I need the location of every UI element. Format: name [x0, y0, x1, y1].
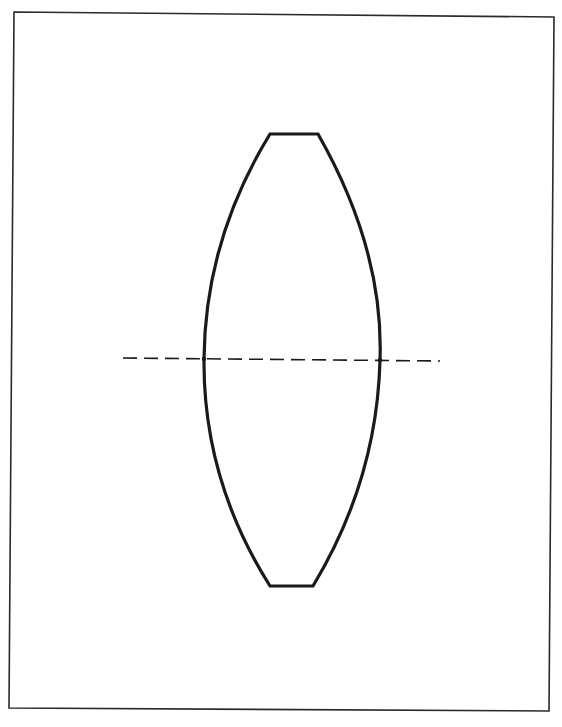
right-vertex-point — [378, 358, 382, 362]
figure-frame — [9, 12, 554, 711]
lens-diagram — [0, 0, 562, 727]
optical-axis-dashed-line — [123, 358, 440, 361]
left-vertex-point — [202, 357, 206, 361]
